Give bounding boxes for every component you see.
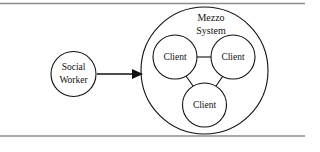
client-node-right-label: Client bbox=[221, 52, 245, 62]
figure-container: Mezzo System Client Client Client Social… bbox=[0, 0, 320, 152]
social-worker-node bbox=[51, 52, 96, 97]
mezzo-system-label-line2: System bbox=[196, 25, 226, 36]
client-node-bottom-label: Client bbox=[193, 100, 217, 110]
social-worker-label-line1: Social bbox=[62, 62, 86, 72]
connection-right-bottom bbox=[216, 76, 223, 86]
client-node-left-label: Client bbox=[163, 52, 187, 62]
connection-left-bottom bbox=[186, 76, 193, 86]
mezzo-system-label-line1: Mezzo bbox=[197, 12, 224, 23]
diagram-canvas: Mezzo System Client Client Client Social… bbox=[0, 0, 320, 152]
social-worker-label-line2: Worker bbox=[59, 75, 88, 85]
